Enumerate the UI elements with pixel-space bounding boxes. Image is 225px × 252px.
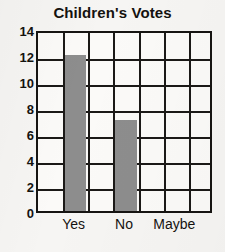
x-tick-label-maybe: Maybe bbox=[153, 216, 195, 232]
plot-area bbox=[36, 31, 212, 213]
gridline-vertical bbox=[88, 33, 90, 211]
y-tick-label: 10 bbox=[2, 76, 36, 91]
x-tick-label-yes: Yes bbox=[62, 216, 85, 232]
y-tick-label: 4 bbox=[2, 154, 36, 169]
y-tick-label: 8 bbox=[2, 102, 36, 117]
y-tick-label: 12 bbox=[2, 50, 36, 65]
y-tick-label: 6 bbox=[2, 128, 36, 143]
chart-title: Children's Votes bbox=[0, 4, 225, 21]
bar-no bbox=[115, 120, 136, 211]
y-tick-label: 14 bbox=[2, 24, 36, 39]
chart-page: Children's Votes 02468101214 YesNoMaybe bbox=[0, 0, 225, 252]
gridline-vertical bbox=[139, 33, 141, 211]
x-tick-label-no: No bbox=[115, 216, 133, 232]
gridline-vertical bbox=[164, 33, 166, 211]
bar-yes bbox=[65, 55, 86, 211]
y-tick-label: 2 bbox=[2, 180, 36, 195]
gridline-vertical bbox=[189, 33, 191, 211]
y-axis-tick-labels: 02468101214 bbox=[0, 31, 36, 213]
y-tick-label: 0 bbox=[2, 206, 36, 221]
